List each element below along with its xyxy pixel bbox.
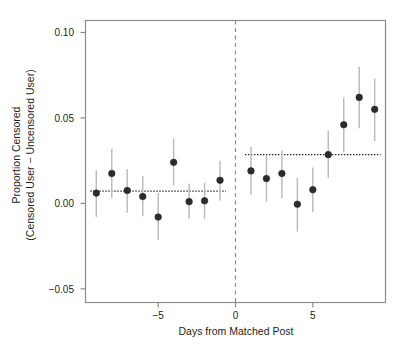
data-point bbox=[155, 214, 162, 221]
data-point bbox=[201, 198, 208, 205]
data-point bbox=[279, 170, 286, 177]
data-point bbox=[340, 121, 347, 128]
data-point bbox=[263, 175, 270, 182]
data-point bbox=[139, 193, 146, 200]
data-point bbox=[356, 94, 363, 101]
data-point bbox=[310, 186, 317, 193]
data-point bbox=[294, 201, 301, 208]
data-point bbox=[371, 106, 378, 113]
plot-border bbox=[86, 21, 386, 303]
data-point bbox=[93, 190, 100, 197]
chart-figure: Proportion Censored (Censored User − Unc… bbox=[0, 0, 396, 353]
plot-area bbox=[0, 0, 396, 353]
data-point bbox=[124, 187, 131, 194]
data-point bbox=[108, 170, 115, 177]
data-point bbox=[325, 151, 332, 158]
figure-caption bbox=[0, 341, 396, 353]
data-point bbox=[170, 159, 177, 166]
data-point bbox=[217, 177, 224, 184]
data-point bbox=[248, 168, 255, 175]
data-point bbox=[186, 198, 193, 205]
